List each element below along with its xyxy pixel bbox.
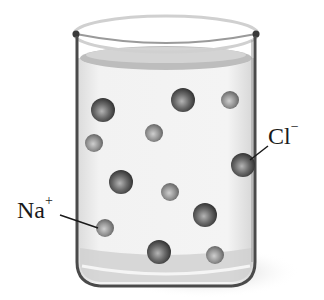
chloride-ion	[171, 88, 195, 112]
sodium-ion	[206, 246, 224, 264]
sodium-ion	[145, 124, 163, 142]
chloride-ion	[147, 240, 171, 264]
sodium-symbol: Na	[17, 197, 45, 223]
chloride-charge: −	[291, 119, 299, 134]
sodium-label: Na+	[17, 198, 53, 222]
chloride-ion	[193, 203, 217, 227]
chloride-ion	[91, 98, 115, 122]
beaker-diagram: Cl− Na+	[0, 0, 324, 300]
sodium-ion	[85, 134, 103, 152]
sodium-ion	[221, 91, 239, 109]
chloride-ion	[231, 153, 255, 177]
sodium-ion	[161, 183, 179, 201]
sodium-charge: +	[45, 193, 53, 208]
chloride-label: Cl−	[268, 124, 299, 148]
chloride-ion	[109, 170, 133, 194]
sodium-ion	[96, 219, 114, 237]
beaker-illustration	[0, 0, 324, 300]
chloride-symbol: Cl	[268, 123, 291, 149]
